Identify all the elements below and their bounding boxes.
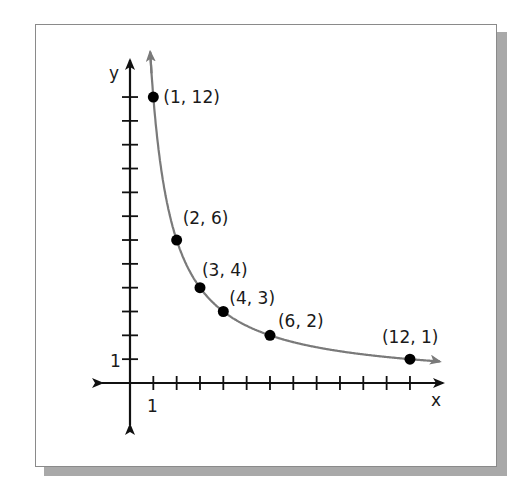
point-marker xyxy=(218,306,229,317)
point-marker xyxy=(404,354,415,365)
chart-canvas: (1, 12)(2, 6)(3, 4)(4, 3)(6, 2)(12, 1) x… xyxy=(0,0,532,491)
point-marker xyxy=(148,92,159,103)
data-point: (6, 2) xyxy=(264,311,323,341)
point-label: (12, 1) xyxy=(382,327,439,347)
axes xyxy=(102,60,443,425)
point-label: (2, 6) xyxy=(183,208,229,228)
point-marker xyxy=(171,235,182,246)
data-points: (1, 12)(2, 6)(3, 4)(4, 3)(6, 2)(12, 1) xyxy=(148,87,439,365)
point-label: (3, 4) xyxy=(202,260,248,280)
data-point: (2, 6) xyxy=(171,208,228,246)
data-point: (12, 1) xyxy=(382,327,439,365)
x-axis-label: x xyxy=(431,390,441,410)
point-marker xyxy=(194,282,205,293)
data-point: (4, 3) xyxy=(218,288,275,318)
point-marker xyxy=(264,330,275,341)
y-tick-label: 1 xyxy=(110,351,121,371)
y-axis-label: y xyxy=(109,63,119,83)
curve-top-arrow xyxy=(150,52,151,74)
point-label: (6, 2) xyxy=(278,311,324,331)
x-tick-label: 1 xyxy=(147,396,158,416)
point-label: (4, 3) xyxy=(229,288,275,308)
point-label: (1, 12) xyxy=(163,87,220,107)
data-point: (1, 12) xyxy=(148,87,220,107)
